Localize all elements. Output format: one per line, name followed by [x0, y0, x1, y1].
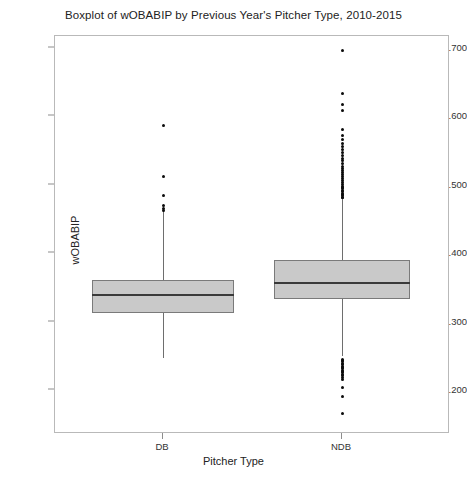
x-axis-tick-label-ndb: NDB	[301, 441, 381, 452]
outlier-point	[341, 109, 344, 112]
y-axis-tick-mark	[48, 320, 54, 321]
y-axis-tick-mark	[48, 115, 54, 116]
x-axis-tick-mark	[341, 433, 342, 439]
outlier-point	[341, 103, 344, 106]
box-iqr-ndb	[274, 260, 410, 299]
y-axis-tick-mark	[48, 389, 54, 390]
outlier-point	[341, 412, 344, 415]
x-axis-tick-mark	[162, 433, 163, 439]
outlier-point	[341, 196, 344, 199]
boxplot-figure: Boxplot of wOBABIP by Previous Year's Pi…	[0, 0, 467, 478]
outlier-point	[341, 395, 344, 398]
chart-title: Boxplot of wOBABIP by Previous Year's Pi…	[0, 9, 467, 21]
y-axis-tick-label: .700	[423, 42, 467, 53]
y-axis-tick-mark	[48, 252, 54, 253]
x-axis-tick-label-db: DB	[122, 441, 202, 452]
y-axis-tick-mark	[48, 47, 54, 48]
median-line-ndb	[274, 282, 410, 284]
outlier-point	[341, 92, 344, 95]
outlier-point	[341, 138, 344, 141]
y-axis-tick-label: .300	[423, 315, 467, 326]
plot-area	[54, 35, 449, 433]
y-axis-title: wOBABIP	[69, 160, 81, 320]
plot-inner	[55, 36, 448, 432]
outlier-point	[341, 386, 344, 389]
outlier-point	[341, 378, 344, 381]
outlier-point	[341, 49, 344, 52]
y-axis-tick-label: .400	[423, 247, 467, 258]
outlier-point	[341, 128, 344, 131]
x-axis-title: Pitcher Type	[0, 455, 467, 467]
y-axis-tick-label: .200	[423, 384, 467, 395]
y-axis-tick-mark	[48, 183, 54, 184]
box-group-ndb	[55, 36, 448, 432]
y-axis-tick-label: .600	[423, 110, 467, 121]
outlier-point	[341, 134, 344, 137]
y-axis-tick-label: .500	[423, 178, 467, 189]
